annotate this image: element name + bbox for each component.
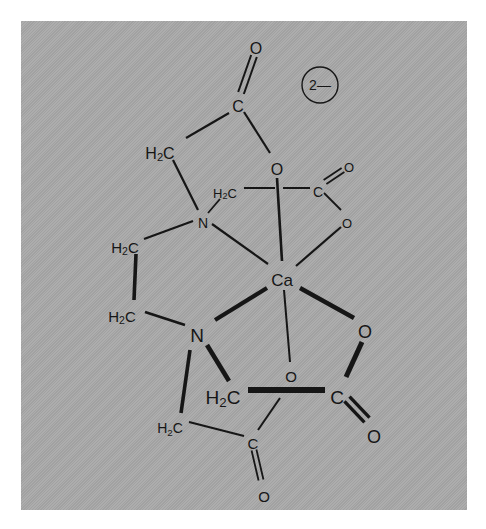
atom-label-o-a: O: [271, 161, 283, 178]
double-bonds: [238, 55, 369, 481]
bond-line: [215, 288, 267, 320]
double-bond-line: [350, 397, 370, 418]
bond-line: [134, 254, 136, 300]
bond-line: [181, 350, 190, 413]
double-bond-line: [244, 57, 257, 94]
atom-label-n-top: N: [198, 215, 208, 231]
bond-line: [296, 227, 341, 266]
bond-line: [144, 221, 193, 239]
atom-label-o-e-dbl: O: [367, 427, 381, 447]
atom-label-ch2-d: H2C: [108, 308, 136, 326]
atom-label-o-b-dbl: O: [344, 160, 354, 175]
atom-label-ch2-c: H2C: [111, 239, 139, 257]
double-bond-line: [238, 55, 251, 92]
bond-line: [208, 199, 220, 213]
bond-line: [186, 113, 229, 138]
double-bond-line: [324, 168, 342, 180]
bond-line: [244, 112, 270, 153]
bond-line: [173, 160, 198, 210]
double-bond-line: [344, 401, 364, 422]
bond-line: [300, 288, 354, 318]
bond-line: [346, 342, 362, 377]
atom-label-ch2-b: H2C: [213, 186, 237, 202]
atom-label-ch2-e: H2C: [206, 387, 241, 410]
bond-line: [284, 290, 290, 362]
atom-label-ch2-f: H2C: [157, 420, 183, 437]
atom-label-n-bot: N: [190, 325, 204, 346]
bond-line: [212, 224, 268, 264]
double-bond-line: [326, 172, 344, 184]
atom-labels: OCH2COH2CCOONH2CCaH2CNOOH2CCH2COCO: [108, 40, 381, 505]
bond-line: [207, 345, 229, 381]
atom-label-o-b: O: [342, 216, 352, 231]
atom-label-o-c: O: [358, 322, 372, 342]
bond-line: [258, 398, 280, 430]
atom-label-c-f: C: [248, 435, 259, 452]
atom-label-c-b: C: [313, 184, 323, 200]
atom-label-ca: Ca: [271, 271, 293, 290]
atom-label-o-f: O: [258, 488, 270, 505]
ca-edta-structure-diagram: OCH2COH2CCOONH2CCaH2CNOOH2CCH2COCO 2—: [0, 0, 486, 529]
charge-badge: 2—: [302, 67, 338, 103]
bond-line: [145, 312, 185, 325]
atom-label-ch2-a: H2C: [145, 145, 174, 164]
bond-line: [324, 193, 341, 210]
bond-line: [189, 422, 244, 436]
atom-label-o-top: O: [250, 40, 262, 57]
charge-label: 2—: [309, 77, 331, 93]
atom-label-c-e: C: [330, 387, 344, 408]
atom-label-o-d: O: [285, 368, 297, 385]
atom-label-c-top: C: [232, 98, 244, 115]
bond-line: [277, 178, 282, 261]
